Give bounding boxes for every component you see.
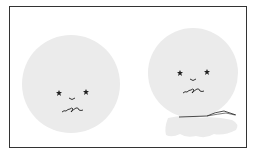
right-face-scarf xyxy=(165,116,237,137)
right-face-head xyxy=(148,28,238,118)
right-face xyxy=(148,28,238,137)
two-faces-illustration xyxy=(0,0,256,153)
left-face-head xyxy=(22,35,120,133)
left-face xyxy=(22,35,120,133)
